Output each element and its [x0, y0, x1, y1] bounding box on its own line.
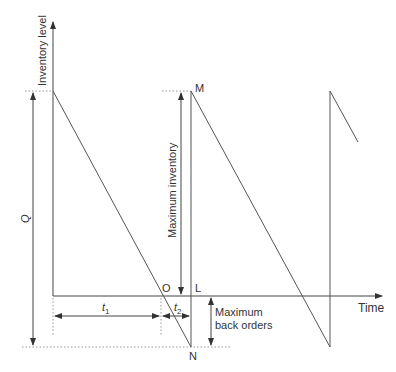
point-m-label: M: [195, 83, 204, 94]
t1-label: t1: [102, 302, 110, 316]
x-axis-label: Time: [358, 302, 384, 314]
point-o-label: O: [162, 283, 171, 294]
diagram-lines: [0, 0, 396, 372]
inventory-diagram: Inventory level Time M N O L Q Maximum i…: [0, 0, 396, 372]
max-inventory-label: Maximum inventory: [167, 143, 178, 238]
q-label: Q: [20, 214, 31, 223]
y-axis-label: Inventory level: [37, 15, 48, 86]
point-l-label: L: [195, 283, 201, 294]
inventory-sawtooth: [53, 91, 358, 347]
point-n-label: N: [189, 351, 197, 362]
t2-label: t2: [174, 302, 182, 316]
max-back-orders-label-line2: back orders: [215, 320, 272, 331]
max-back-orders-label-line1: Maximum: [215, 307, 263, 318]
